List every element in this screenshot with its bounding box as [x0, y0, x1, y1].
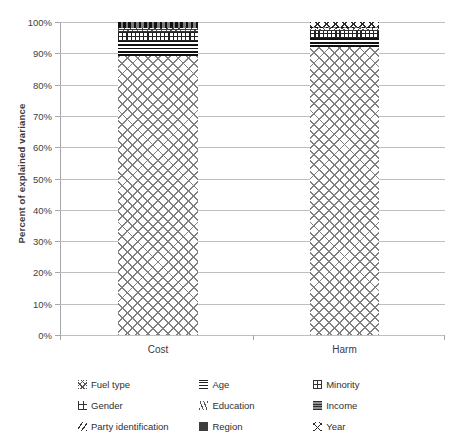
- legend-swatch-income-icon: [313, 401, 322, 410]
- bar-segment-region[interactable]: [310, 27, 379, 29]
- y-axis-tick: [55, 304, 60, 305]
- x-axis-label-cost: Cost: [88, 344, 228, 355]
- y-axis-tick-label: 0%: [8, 330, 52, 341]
- stacked-bar-harm[interactable]: [310, 22, 379, 335]
- bar-segment-age[interactable]: [118, 41, 198, 57]
- legend-label: Party identification: [91, 421, 169, 432]
- y-axis-tick: [55, 272, 60, 273]
- legend-item-education[interactable]: Education: [199, 400, 313, 411]
- x-axis-tick: [253, 335, 254, 340]
- y-axis-tick-label: 30%: [8, 236, 52, 247]
- bar-segment-fuel-type[interactable]: [310, 47, 379, 335]
- legend-swatch-gender-icon: [78, 401, 87, 410]
- legend-label: Minority: [326, 379, 359, 390]
- legend-item-party-identification[interactable]: Party identification: [78, 421, 199, 432]
- legend-row: GenderEducationIncome: [78, 395, 408, 416]
- y-axis-tick: [55, 116, 60, 117]
- y-axis-tick-label: 70%: [8, 111, 52, 122]
- y-axis-tick-label: 60%: [8, 142, 52, 153]
- y-axis-tick: [55, 179, 60, 180]
- legend-label: Education: [212, 400, 254, 411]
- legend-item-year[interactable]: Year: [313, 421, 408, 432]
- y-axis-tick: [55, 147, 60, 148]
- legend-label: Region: [212, 421, 242, 432]
- legend-label: Income: [326, 400, 357, 411]
- bar-segment-age[interactable]: [310, 38, 379, 47]
- y-axis-tick-label: 10%: [8, 299, 52, 310]
- bar-segment-fuel-type[interactable]: [118, 56, 198, 335]
- legend-swatch-education-icon: [199, 401, 208, 410]
- x-axis-tick: [444, 335, 445, 340]
- legend-swatch-fuel-type-icon: [78, 380, 87, 389]
- chart-legend: Fuel typeAgeMinorityGenderEducationIncom…: [78, 374, 408, 437]
- x-axis-tick: [60, 335, 61, 340]
- plot-area: 0%10%20%30%40%50%60%70%80%90%100% CostHa…: [60, 22, 445, 335]
- y-axis-tick-label: 90%: [8, 48, 52, 59]
- y-axis-tick-label: 40%: [8, 205, 52, 216]
- y-axis-tick: [55, 53, 60, 54]
- bar-segment-party-identification[interactable]: [118, 28, 198, 30]
- y-axis-tick: [55, 210, 60, 211]
- legend-item-gender[interactable]: Gender: [78, 400, 199, 411]
- legend-label: Age: [212, 379, 229, 390]
- legend-item-region[interactable]: Region: [199, 421, 313, 432]
- y-axis-tick: [55, 22, 60, 23]
- legend-label: Fuel type: [91, 379, 130, 390]
- y-axis-tick-label: 50%: [8, 174, 52, 185]
- stacked-bar-cost[interactable]: [118, 22, 198, 335]
- y-axis-tick: [55, 241, 60, 242]
- bar-segment-minority[interactable]: [310, 30, 379, 38]
- legend-item-income[interactable]: Income: [313, 400, 408, 411]
- legend-item-minority[interactable]: Minority: [313, 379, 408, 390]
- legend-swatch-age-icon: [199, 380, 208, 389]
- y-axis-tick-label: 100%: [8, 17, 52, 28]
- legend-row: Party identificationRegionYear: [78, 416, 408, 437]
- bar-segment-region[interactable]: [118, 22, 198, 28]
- y-axis-tick-label: 80%: [8, 80, 52, 91]
- y-axis-tick-label: 20%: [8, 267, 52, 278]
- legend-row: Fuel typeAgeMinority: [78, 374, 408, 395]
- legend-label: Year: [326, 421, 345, 432]
- legend-label: Gender: [91, 400, 123, 411]
- legend-swatch-region-icon: [199, 422, 208, 431]
- x-axis-label-harm: Harm: [280, 344, 409, 355]
- bar-segment-year[interactable]: [310, 22, 379, 27]
- legend-item-age[interactable]: Age: [199, 379, 313, 390]
- y-axis-tick: [55, 85, 60, 86]
- legend-item-fuel-type[interactable]: Fuel type: [78, 379, 199, 390]
- legend-swatch-party-identification-icon: [78, 422, 87, 431]
- legend-swatch-minority-icon: [313, 380, 322, 389]
- bar-segment-minority[interactable]: [118, 31, 198, 40]
- legend-swatch-year-icon: [313, 422, 322, 431]
- stacked-bar-chart: Percent of explained variance 0%10%20%30…: [0, 0, 460, 442]
